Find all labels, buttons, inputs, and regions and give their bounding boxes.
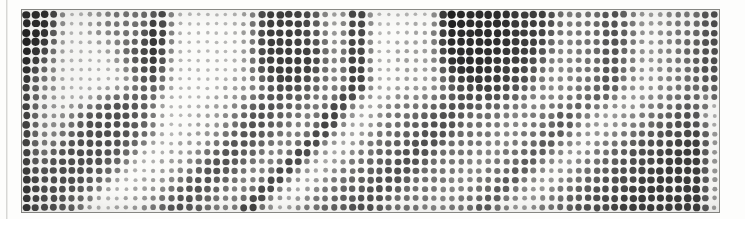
halftone-dot-grid — [22, 10, 719, 212]
halftone-plate — [21, 9, 720, 213]
scanned-halftone-page — [0, 0, 745, 226]
sheet-bottom-margin — [0, 219, 745, 226]
scan-seam-line-secondary — [7, 0, 8, 226]
